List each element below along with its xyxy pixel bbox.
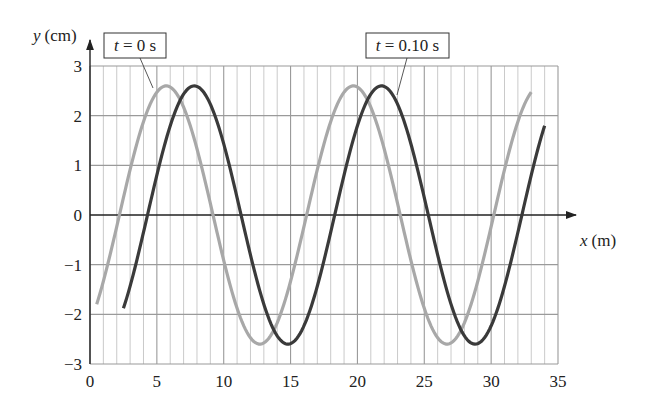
x-tick-label: 20 xyxy=(349,372,366,391)
callout-label: t = 0 s xyxy=(114,36,156,55)
leader-line xyxy=(140,58,153,88)
wave-chart: 05101520253035−3−2−10123 t = 0 st = 0.10… xyxy=(0,0,660,416)
y-tick-label: −2 xyxy=(64,305,82,324)
x-tick-label: 25 xyxy=(416,372,433,391)
y-tick-label: 1 xyxy=(74,156,83,175)
y-tick-label: 0 xyxy=(74,206,83,225)
leader-line xyxy=(397,58,407,95)
x-tick-label: 30 xyxy=(483,372,500,391)
axes xyxy=(90,40,576,364)
x-tick-label: 10 xyxy=(215,372,232,391)
x-tick-label: 15 xyxy=(282,372,299,391)
y-tick-label: −1 xyxy=(64,256,82,275)
x-axis-label: x(m) xyxy=(579,231,616,250)
x-tick-label: 0 xyxy=(86,372,95,391)
x-tick-label: 35 xyxy=(550,372,567,391)
callout-label: t = 0.10 s xyxy=(376,36,439,55)
y-tick-label: 2 xyxy=(74,107,83,126)
x-tick-label: 5 xyxy=(153,372,162,391)
y-tick-label: −3 xyxy=(64,355,82,374)
y-tick-label: 3 xyxy=(74,57,83,76)
y-axis-label: y(cm) xyxy=(31,26,77,45)
